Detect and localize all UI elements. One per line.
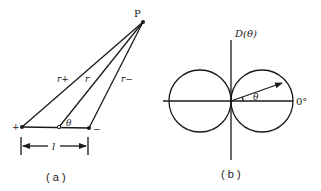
line-r-minus <box>89 22 143 128</box>
separation-label: l <box>52 141 55 152</box>
caption-a: ( a ) <box>46 171 66 183</box>
point-p-label: P <box>134 8 141 19</box>
plus-charge-dot <box>20 125 24 129</box>
minus-charge-dot <box>87 126 91 130</box>
theta-label-b: θ <box>253 92 259 102</box>
r-minus-label: r− <box>121 74 133 84</box>
theta-arc <box>242 97 243 101</box>
plus-charge-label: + <box>12 122 20 132</box>
panel-a: P r+ r r− θ + − l ( a ) <box>12 8 145 183</box>
midpoint-dot <box>57 125 60 128</box>
caption-b: ( b ) <box>221 168 241 180</box>
r-plus-label: r+ <box>57 74 69 84</box>
dipole-diagram: P r+ r r− θ + − l ( a ) D(θ) θ 0° ( b ) <box>0 0 321 191</box>
d-theta-label: D(θ) <box>234 28 257 39</box>
zero-degree-label: 0° <box>296 96 307 107</box>
panel-b: D(θ) θ 0° ( b ) <box>163 28 307 180</box>
point-p-dot <box>141 20 145 24</box>
dipole-axis <box>22 127 89 128</box>
theta-label-a: θ <box>66 118 72 128</box>
r-label: r <box>85 74 90 84</box>
minus-charge-label: − <box>93 124 101 134</box>
